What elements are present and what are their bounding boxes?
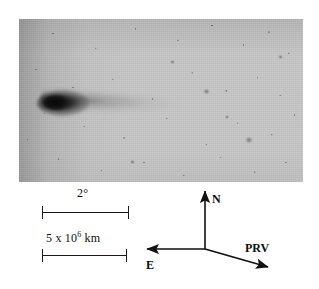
linear-scale-bar-label: 5 x 106 km [46, 231, 100, 246]
background-object [170, 60, 175, 64]
linear-scale-bar-cap-right [126, 249, 127, 262]
background-object [245, 137, 253, 143]
compass-arrows [130, 180, 319, 285]
comet-figure: 2° 5 x 106 km N E PRV [0, 0, 319, 289]
angular-scale-bar-cap-right [128, 206, 129, 219]
linear-scale-bar-line [42, 255, 127, 256]
angular-scale-bar-cap-left [42, 206, 43, 219]
orientation-compass: N E PRV [130, 180, 319, 285]
background-object [225, 115, 229, 119]
linear-scale-bar-cap-left [42, 249, 43, 262]
background-object [130, 160, 135, 164]
north-label: N [212, 192, 221, 207]
comet-image-plate [19, 19, 303, 182]
comet-nucleus [43, 95, 69, 110]
linear-scale-mantissa: 5 x 10 [46, 231, 77, 245]
angular-scale-bar-label: 2° [77, 186, 88, 201]
prv-label: PRV [245, 241, 269, 256]
background-object [278, 55, 283, 59]
linear-scale-unit: km [81, 231, 100, 245]
east-label: E [146, 258, 154, 273]
angular-scale-bar-line [42, 212, 129, 213]
